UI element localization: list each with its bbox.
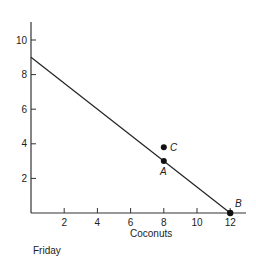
x-tick-label: 12 bbox=[225, 217, 237, 228]
y-tick-label: 8 bbox=[21, 69, 27, 80]
x-tick-label: 2 bbox=[61, 217, 67, 228]
point-c-label: C bbox=[170, 142, 178, 153]
y-tick-labels: 2 4 6 8 10 bbox=[16, 35, 28, 184]
chart-canvas: 2 4 6 8 10 2 4 6 8 10 12 Coconuts Friday… bbox=[0, 0, 256, 262]
point-c-marker bbox=[161, 144, 167, 150]
point-b-marker bbox=[227, 210, 233, 216]
x-ticks bbox=[64, 208, 230, 213]
budget-line bbox=[31, 57, 230, 213]
point-a-label: A bbox=[159, 166, 167, 177]
chart-caption: Friday bbox=[33, 245, 61, 256]
x-tick-label: 10 bbox=[191, 217, 203, 228]
x-axis-title: Coconuts bbox=[130, 228, 172, 239]
x-tick-label: 8 bbox=[161, 217, 167, 228]
x-tick-label: 4 bbox=[95, 217, 101, 228]
y-tick-label: 10 bbox=[16, 35, 28, 46]
y-tick-label: 6 bbox=[21, 104, 27, 115]
y-tick-label: 2 bbox=[21, 173, 27, 184]
point-a-marker bbox=[161, 158, 167, 164]
point-b-label: B bbox=[235, 198, 242, 209]
y-tick-label: 4 bbox=[21, 138, 27, 149]
axes bbox=[31, 22, 246, 213]
x-tick-labels: 2 4 6 8 10 12 bbox=[61, 217, 236, 228]
x-tick-label: 6 bbox=[128, 217, 134, 228]
